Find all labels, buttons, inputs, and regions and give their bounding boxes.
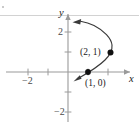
y-axis-arrowhead (65, 14, 70, 20)
data-point-1-0 (85, 69, 91, 75)
graph-figure: y x −2 2 −2 (2, 1) (1, 0) (0, 0, 139, 125)
coordinate-plane-svg (0, 0, 139, 125)
y-axis (65, 14, 72, 122)
y-tick-label--2: −2 (54, 107, 65, 117)
x-axis-label: x (129, 74, 134, 85)
data-point-2-1 (108, 50, 114, 56)
x-tick-label--2: −2 (22, 76, 33, 86)
curve-arrowhead-lower (74, 75, 82, 81)
point-label-1-0: (1, 0) (85, 79, 106, 89)
point-label-2-1: (2, 1) (80, 48, 101, 58)
y-axis-label: y (59, 8, 64, 19)
curve-arrowhead-upper (73, 19, 82, 25)
y-tick-label-2: 2 (58, 27, 63, 37)
